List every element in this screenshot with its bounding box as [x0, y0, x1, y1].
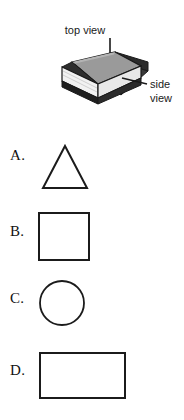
option-b-label: B. — [10, 223, 24, 240]
option-a-label: A. — [10, 147, 25, 164]
triangle-shape[interactable] — [40, 143, 90, 191]
side-view-label-line2: view — [150, 92, 172, 104]
book-illustration — [62, 52, 148, 104]
question-figure-page: top view — [0, 0, 184, 420]
side-view-label-line1: side — [150, 78, 170, 90]
option-a[interactable]: A. — [0, 143, 184, 193]
square-shape[interactable] — [37, 211, 91, 263]
top-view-label: top view — [65, 24, 105, 36]
option-c-label: C. — [10, 290, 24, 307]
circle-shape[interactable] — [38, 279, 88, 329]
option-b[interactable]: B. — [0, 211, 184, 263]
option-d-label: D. — [10, 362, 25, 379]
rectangle-shape[interactable] — [38, 351, 128, 401]
book-diagram: top view — [0, 0, 184, 130]
option-c[interactable]: C. — [0, 279, 184, 329]
option-d[interactable]: D. — [0, 351, 184, 401]
